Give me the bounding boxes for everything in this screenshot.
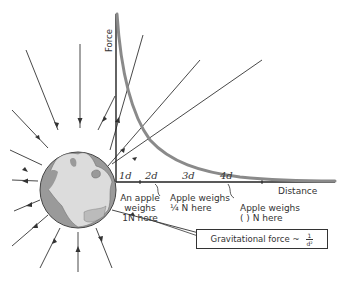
annotation-apple-2d: Apple weighs ¼ N here [170,193,230,213]
earth-globe [40,152,116,228]
y-axis-label: Force [104,29,114,52]
formula-box: Gravitational force ~ 1 d² [196,229,328,249]
x-axis-label: Distance [278,186,317,196]
tick-2d: 2d [145,171,158,181]
annotation-apple-1d: An apple weighs 1N here [118,193,162,223]
formula-text: Gravitational force ~ [211,234,300,244]
annotation-apple-4d: Apple weighs ( ) N here [240,203,300,223]
tick-1d: 1d [119,171,132,181]
force-curve [117,14,335,181]
tick-4d: 4d [220,171,233,181]
tick-3d: 3d [182,171,195,181]
formula-fraction: 1 d² [306,232,314,247]
chart-axes [116,14,335,182]
